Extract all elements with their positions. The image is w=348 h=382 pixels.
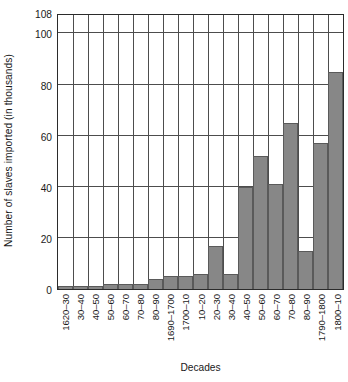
y-axis-title: Number of slaves imported (in thousands)	[0, 0, 18, 300]
x-axis-tick-text: 70–80	[286, 294, 297, 320]
y-axis-tick: 100	[35, 29, 52, 40]
bar	[313, 143, 328, 289]
plot-area	[57, 14, 344, 290]
bar	[283, 123, 298, 289]
x-axis-tick: 1700–10	[178, 292, 193, 358]
bar-chart: Number of slaves imported (in thousands)…	[0, 0, 348, 382]
bar	[118, 284, 133, 289]
y-axis-tick: 80	[41, 80, 52, 91]
x-axis-tick-text: 20–30	[210, 294, 221, 320]
x-axis-tick-text: 30–40	[225, 294, 236, 320]
y-axis-tick: 40	[41, 182, 52, 193]
x-axis-tick: 20–30	[208, 292, 223, 358]
x-axis-tick-text: 50–60	[104, 294, 115, 320]
x-axis-tick: 1620–30	[57, 292, 72, 358]
x-axis-tick-text: 10–20	[195, 294, 206, 320]
x-axis-tick: 30–40	[72, 292, 87, 358]
y-axis-title-text: Number of slaves imported (in thousands)	[4, 53, 15, 246]
x-axis-tick: 50–60	[102, 292, 117, 358]
bar	[268, 184, 283, 289]
bar	[178, 276, 193, 289]
x-axis-tick: 40–50	[238, 292, 253, 358]
y-axis-tick: 108	[35, 9, 52, 20]
x-axis-tick-text: 1700–10	[180, 294, 191, 331]
y-axis-tick: 0	[46, 285, 52, 296]
x-axis-tick-text: 50–60	[255, 294, 266, 320]
bar	[298, 251, 313, 289]
bar	[103, 284, 118, 289]
y-axis-tick: 60	[41, 131, 52, 142]
x-axis-tick-text: 1790–1800	[316, 294, 327, 341]
x-axis-tick-text: 40–50	[240, 294, 251, 320]
x-axis-tick: 70–80	[284, 292, 299, 358]
y-axis-tick-labels: 020406080100108	[18, 0, 56, 300]
x-axis-tick-labels: 1620–3030–4040–5050–6060–7070–8080–90169…	[57, 292, 344, 358]
bar	[238, 187, 253, 289]
bar	[328, 72, 343, 289]
x-axis-tick: 80–90	[148, 292, 163, 358]
x-axis-tick: 70–80	[133, 292, 148, 358]
bar	[88, 286, 103, 289]
bar	[208, 246, 223, 289]
x-axis-tick: 30–40	[223, 292, 238, 358]
bar	[58, 286, 73, 289]
x-axis-tick-text: 70–80	[135, 294, 146, 320]
x-axis-tick-text: 30–40	[74, 294, 85, 320]
x-axis-tick-text: 60–70	[271, 294, 282, 320]
x-axis-tick: 80–90	[299, 292, 314, 358]
x-axis-tick: 40–50	[87, 292, 102, 358]
y-axis-tick: 20	[41, 233, 52, 244]
bar	[253, 156, 268, 289]
x-axis-tick: 1790–1800	[314, 292, 329, 358]
bar	[193, 274, 208, 289]
x-axis-tick-text: 60–70	[119, 294, 130, 320]
x-axis-title: Decades	[57, 362, 344, 373]
x-axis-tick-text: 1690–1700	[165, 294, 176, 341]
x-axis-tick: 50–60	[253, 292, 268, 358]
bar	[223, 274, 238, 289]
x-axis-tick-text: 80–90	[301, 294, 312, 320]
x-axis-tick: 60–70	[117, 292, 132, 358]
bar	[163, 276, 178, 289]
bar	[148, 279, 163, 289]
x-axis-tick-text: 40–50	[89, 294, 100, 320]
x-axis-tick: 60–70	[269, 292, 284, 358]
x-axis-tick-text: 1620–30	[59, 294, 70, 331]
x-axis-tick-text: 1800–10	[331, 294, 342, 331]
bar	[133, 284, 148, 289]
x-axis-tick: 1800–10	[329, 292, 344, 358]
x-axis-tick: 1690–1700	[163, 292, 178, 358]
bar	[73, 286, 88, 289]
bar-series	[58, 15, 343, 289]
x-axis-tick-text: 80–90	[150, 294, 161, 320]
x-axis-tick: 10–20	[193, 292, 208, 358]
